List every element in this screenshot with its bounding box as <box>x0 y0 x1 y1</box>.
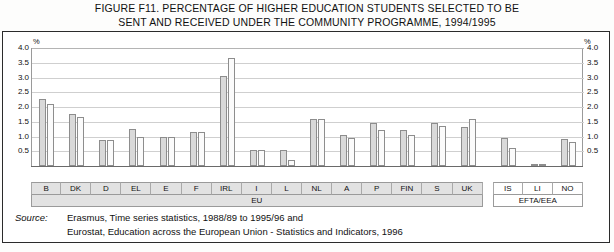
bar-group-li <box>531 48 547 166</box>
bar-received-uk <box>469 119 476 166</box>
bar-received-i <box>258 150 265 166</box>
y-tick-right-1.5: 1.5 <box>587 118 609 126</box>
region-label-band: EUEFTA/EEA <box>31 195 583 207</box>
bar-sent-nl <box>310 119 317 166</box>
bar-group-irl <box>220 48 236 166</box>
bar-received-d <box>107 140 114 166</box>
bar-group-d <box>99 48 115 166</box>
bar-received-s <box>439 126 446 166</box>
bar-received-b <box>47 104 54 166</box>
figure-title-line-2: SENT AND RECEIVED UNDER THE COMMUNITY PR… <box>0 15 614 29</box>
bar-sent-i <box>250 150 257 166</box>
category-label-nl: NL <box>302 182 332 195</box>
region-label-eu: EU <box>31 195 483 207</box>
category-label-i: I <box>242 182 272 195</box>
y-axis-unit-left: % <box>33 37 40 46</box>
y-tick-left-2.5: 2.5 <box>7 88 29 96</box>
y-tick-left-1.0: 1.0 <box>7 133 29 141</box>
y-tick-right-0.5: 0.5 <box>587 147 609 155</box>
category-label-d: D <box>91 182 121 195</box>
y-tick-left-3.5: 3.5 <box>7 59 29 67</box>
y-tick-right-2.5: 2.5 <box>587 88 609 96</box>
category-label-l: L <box>272 182 302 195</box>
category-label-p: P <box>362 182 392 195</box>
category-label-is: IS <box>493 182 523 195</box>
category-label-uk: UK <box>453 182 483 195</box>
bar-sent-a <box>340 135 347 166</box>
bar-group-p <box>370 48 386 166</box>
bar-group-el <box>129 48 145 166</box>
region-label-efta-eea: EFTA/EEA <box>493 195 583 207</box>
bar-received-p <box>378 130 385 166</box>
y-tick-right-4.0: 4.0 <box>587 44 609 52</box>
bar-group-b <box>39 48 55 166</box>
bar-group-uk <box>461 48 477 166</box>
bar-group-e <box>160 48 176 166</box>
bar-sent-no <box>561 139 568 166</box>
category-label-li: LI <box>523 182 553 195</box>
bar-sent-dk <box>69 114 76 166</box>
bar-received-dk <box>77 117 84 166</box>
category-label-b: B <box>31 182 61 195</box>
bar-group-nl <box>310 48 326 166</box>
bar-group-s <box>431 48 447 166</box>
y-tick-right-3.0: 3.0 <box>587 74 609 82</box>
bar-group-i <box>250 48 266 166</box>
bar-sent-b <box>39 99 46 166</box>
bar-received-irl <box>228 58 235 166</box>
bar-sent-l <box>280 150 287 166</box>
bar-sent-fin <box>400 130 407 166</box>
category-label-band: BDKDELEFIRLILNLAPFINSUKISLINO <box>31 182 583 195</box>
category-label-fin: FIN <box>392 182 422 195</box>
bar-received-a <box>348 138 355 166</box>
figure-title: FIGURE F11. PERCENTAGE OF HIGHER EDUCATI… <box>0 1 614 29</box>
chart-frame: % % 4.03.53.02.52.01.51.00.5 4.03.53.02.… <box>2 31 610 243</box>
y-tick-left-0.5: 0.5 <box>7 147 29 155</box>
bar-group-fin <box>400 48 416 166</box>
y-tick-left-4.0: 4.0 <box>7 44 29 52</box>
bar-group-no <box>561 48 577 166</box>
figure-page: FIGURE F11. PERCENTAGE OF HIGHER EDUCATI… <box>0 0 614 252</box>
bar-sent-irl <box>220 76 227 166</box>
y-tick-left-2.0: 2.0 <box>7 103 29 111</box>
bar-received-fin <box>408 135 415 166</box>
bar-group-dk <box>69 48 85 166</box>
y-tick-right-2.0: 2.0 <box>587 103 609 111</box>
bar-sent-s <box>431 123 438 166</box>
category-label-f: F <box>182 182 212 195</box>
bar-sent-p <box>370 123 377 166</box>
bar-sent-d <box>99 140 106 166</box>
category-label-a: A <box>332 182 362 195</box>
x-axis-baseline <box>31 166 583 167</box>
bar-sent-is <box>501 138 508 166</box>
y-tick-right-1.0: 1.0 <box>587 133 609 141</box>
bar-sent-e <box>160 137 167 166</box>
y-tick-right-3.5: 3.5 <box>587 59 609 67</box>
scan-artifact <box>4 246 8 252</box>
bar-received-el <box>137 137 144 166</box>
bar-group-a <box>340 48 356 166</box>
bar-group-l <box>280 48 296 166</box>
category-label-el: EL <box>121 182 151 195</box>
y-tick-left-1.5: 1.5 <box>7 118 29 126</box>
bar-received-e <box>168 137 175 166</box>
category-label-s: S <box>422 182 452 195</box>
bar-sent-uk <box>461 127 468 166</box>
bar-sent-f <box>190 132 197 166</box>
bar-group-is <box>501 48 517 166</box>
source-label: Source: <box>15 212 48 223</box>
bar-received-no <box>569 142 576 166</box>
bar-received-nl <box>318 119 325 166</box>
category-label-irl: IRL <box>212 182 242 195</box>
category-label-no: NO <box>553 182 583 195</box>
figure-title-line-1: FIGURE F11. PERCENTAGE OF HIGHER EDUCATI… <box>0 1 614 15</box>
y-tick-left-3.0: 3.0 <box>7 74 29 82</box>
category-label-dk: DK <box>61 182 91 195</box>
bar-sent-el <box>129 129 136 166</box>
bar-group-f <box>190 48 206 166</box>
bar-received-is <box>509 148 516 166</box>
source-line-2: Eurostat, Education across the European … <box>67 226 403 237</box>
plot-area-wrapper: 4.03.53.02.52.01.51.00.5 4.03.53.02.52.0… <box>31 48 583 183</box>
category-label-e: E <box>151 182 181 195</box>
bar-received-f <box>198 132 205 167</box>
